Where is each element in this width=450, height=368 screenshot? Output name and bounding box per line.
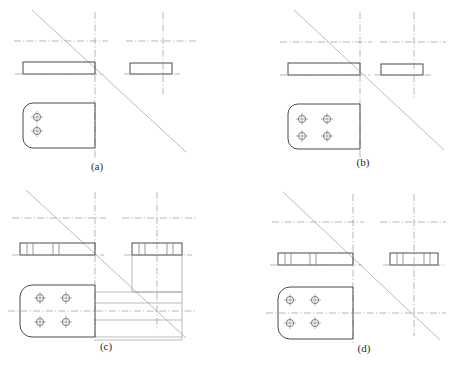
plan-view-plate-b: [288, 104, 360, 149]
panel-d: (d): [266, 192, 446, 355]
front-view-bar-b: [288, 63, 360, 75]
hole-group-a: [31, 111, 43, 137]
hole-group-d: [284, 294, 321, 329]
front-view-bar-a: [23, 62, 95, 74]
miter-line-c: [26, 190, 186, 338]
panel-label-d: (d): [358, 342, 371, 355]
hole-group-c: [34, 292, 72, 328]
panel-label-c: (c): [100, 340, 113, 353]
front-view-bar-c: [20, 243, 95, 255]
miter-line-d: [283, 192, 440, 340]
side-view-bar-b: [381, 64, 423, 75]
miter-line-b: [294, 10, 444, 150]
hole-group-b: [296, 113, 333, 142]
front-view-bar-d: [278, 253, 353, 265]
figure-canvas: (a): [0, 0, 450, 368]
side-view-bar-a: [130, 63, 172, 74]
panel-label-b: (b): [357, 156, 370, 169]
panel-c: (c): [8, 190, 196, 353]
orthographic-projection-figure: (a): [0, 0, 450, 368]
plan-view-plate-a: [23, 103, 95, 148]
panel-a: (a): [14, 10, 196, 173]
panel-b: (b): [280, 10, 446, 169]
panel-label-a: (a): [91, 160, 104, 173]
